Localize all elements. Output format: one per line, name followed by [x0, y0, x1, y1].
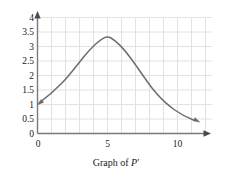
y-tick-label-2.5: 2.5	[22, 56, 34, 66]
chart-background	[0, 0, 232, 176]
y-tick-label-4: 4	[29, 13, 34, 23]
y-tick-label-3.5: 3.5	[22, 27, 34, 37]
x-tick-label-10: 10	[173, 139, 183, 149]
x-tick-label-5: 5	[105, 139, 110, 149]
y-tick-label-1.5: 1.5	[22, 85, 34, 95]
chart-figure: 4 3.5 3 2.5 2 1.5 1 0.5 0 0 5 10 Graph o…	[0, 0, 232, 176]
y-tick-label-3: 3	[29, 42, 34, 52]
caption-prefix: Graph of	[93, 157, 131, 168]
y-tick-label-0: 0	[29, 129, 34, 139]
svg-text:Graph of P′: Graph of P′	[93, 157, 140, 168]
y-tick-label-2: 2	[29, 71, 34, 81]
graph-of-p-prime-chart: 4 3.5 3 2.5 2 1.5 1 0.5 0 0 5 10 Graph o…	[0, 0, 232, 176]
x-tick-label-0: 0	[36, 139, 41, 149]
y-tick-label-1: 1	[29, 100, 34, 110]
caption-symbol: P	[130, 157, 137, 168]
chart-caption: Graph of P′	[93, 157, 140, 168]
y-tick-label-0.5: 0.5	[22, 114, 34, 124]
caption-prime: ′	[137, 157, 139, 168]
